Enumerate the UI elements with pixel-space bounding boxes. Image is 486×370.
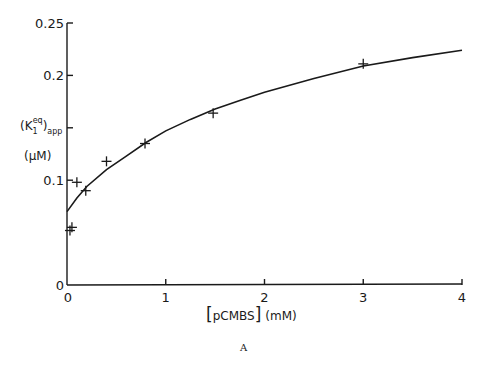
panel-label: A: [239, 342, 248, 353]
y-tick-label: 0.25: [35, 16, 64, 31]
data-point-plus-marker: [72, 177, 82, 187]
y-axis-label-top: (K1eq)app: [20, 116, 62, 136]
fitted-curve: [67, 50, 462, 211]
x-tick-label: 4: [458, 290, 466, 305]
data-point-plus-marker: [140, 139, 150, 149]
x-axis-label-text: [pCMBS](mM): [206, 304, 297, 324]
fit-curve-path: [67, 50, 462, 211]
x-axis-label: [pCMBS](mM): [206, 304, 297, 324]
x-tick-label: 2: [260, 290, 268, 305]
y-tick-label: 0.1: [43, 173, 64, 188]
x-tick-label: 1: [162, 290, 170, 305]
data-point-plus-marker: [102, 156, 112, 166]
axes: [67, 23, 462, 285]
x-tick-label: 3: [359, 290, 367, 305]
y-tick-label: 0: [56, 278, 64, 293]
y-axis-unit: (μM): [24, 149, 51, 163]
data-point-plus-marker: [208, 108, 218, 118]
x-tick-label: 0: [64, 290, 72, 305]
y-tick-label: 0.2: [43, 68, 64, 83]
chart: 01234 00.10.20.25 (K1eq)app (μM) [pCMBS]…: [0, 0, 486, 370]
y-axis-label: (K1eq)app (μM): [20, 116, 62, 163]
x-axis-ticks: 01234: [64, 279, 466, 305]
data-points: [65, 59, 368, 236]
data-point-plus-marker: [81, 186, 91, 196]
